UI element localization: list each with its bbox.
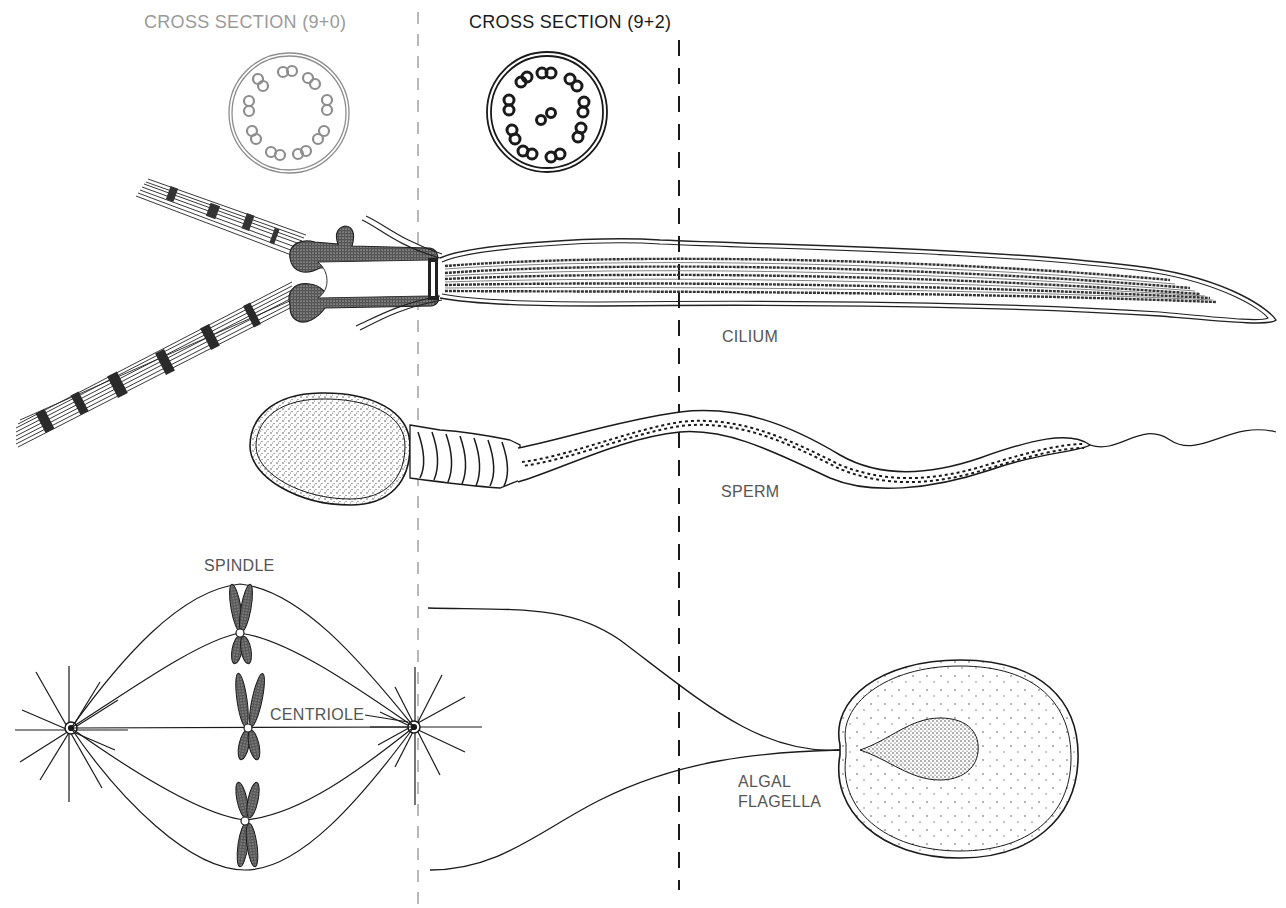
centriole-label: CENTRIOLE [270, 706, 364, 724]
cross-section-9-2-label: CROSS SECTION (9+2) [469, 12, 671, 33]
sperm-label: SPERM [721, 483, 779, 501]
algal-flagella-label: ALGAL FLAGELLA [738, 772, 821, 812]
algal-flagella-illustration [428, 608, 1078, 870]
cilium-illustration [16, 179, 1276, 447]
algal-flagella-label-line1: ALGAL [738, 772, 821, 792]
flagellum-upper [428, 608, 840, 750]
cross-section-9-0-label: CROSS SECTION (9+0) [144, 12, 346, 33]
algal-flagella-label-line2: FLAGELLA [738, 792, 821, 812]
sperm-tail [518, 411, 1090, 489]
cross-section-9-2-diagram [487, 52, 607, 172]
microtubule-structures-diagram: CROSS SECTION (9+0) CROSS SECTION (9+2) … [0, 0, 1286, 908]
cross-section-9-0-diagram [229, 53, 349, 173]
upper-rootlet [136, 179, 306, 256]
cilium-label: CILIUM [722, 328, 778, 346]
sperm-end-piece [1090, 430, 1276, 447]
right-aster [370, 667, 482, 805]
spindle-label: SPINDLE [204, 557, 275, 575]
